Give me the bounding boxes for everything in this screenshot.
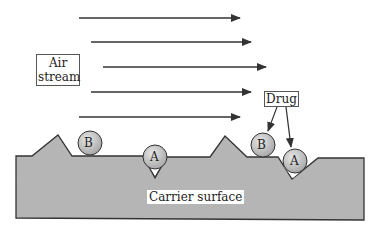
particle-label-a-right: A: [290, 154, 299, 168]
carrier-surface-label: Carrier surface: [147, 190, 244, 204]
drug-label: Drug: [264, 91, 299, 107]
air-stream-label-line2: stream: [38, 70, 78, 84]
air-stream-label: Air stream: [36, 54, 80, 86]
air-stream-arrows: [79, 18, 266, 117]
air-stream-label-line1: Air: [38, 56, 78, 70]
particle-label-a-left: A: [150, 150, 159, 164]
particle-label-b-left: B: [84, 136, 93, 150]
carrier-surface: [16, 135, 364, 220]
drug-arrow-b: [268, 107, 277, 131]
particle-label-b-right: B: [257, 138, 266, 152]
drug-arrow-a: [286, 107, 291, 147]
